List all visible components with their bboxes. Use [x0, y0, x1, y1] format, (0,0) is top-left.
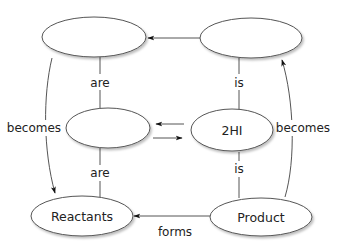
node-reactants-label: Reactants [51, 209, 113, 224]
concept-map-canvas: are is are is becomes becomes forms 2HI [0, 0, 340, 250]
node-middle-left-ellipse [66, 108, 150, 148]
edge-label-are-bottom: are [90, 166, 109, 180]
node-product-label: Product [237, 210, 285, 225]
edge-label-are-top: are [90, 76, 109, 90]
node-middle-left [66, 108, 150, 148]
node-product: Product [210, 198, 312, 236]
node-2hi: 2HI [191, 109, 273, 151]
node-reactants: Reactants [31, 196, 133, 236]
edge-label-becomes-left: becomes [7, 121, 61, 135]
edge-label-is-top: is [234, 76, 244, 90]
node-top-left-ellipse [42, 17, 146, 57]
node-top-left [42, 17, 146, 57]
edge-label-becomes-right: becomes [276, 121, 330, 135]
node-top-right [200, 18, 302, 58]
node-top-right-ellipse [200, 18, 302, 58]
concept-map: are is are is becomes becomes forms 2HI [0, 0, 340, 250]
edge-label-forms: forms [158, 225, 192, 239]
node-2hi-label: 2HI [221, 123, 242, 138]
edge-label-is-bottom: is [234, 162, 244, 176]
